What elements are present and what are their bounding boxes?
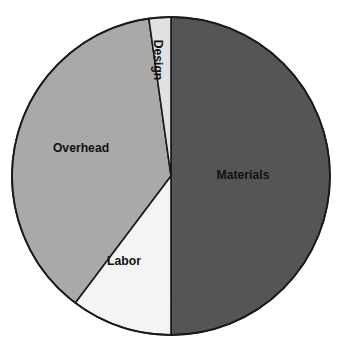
pie-slice-label-design: Design: [151, 40, 165, 81]
pie-slices: [12, 17, 330, 335]
pie-slice-label-materials: Materials: [217, 168, 270, 182]
pie-slice-label-overhead: Overhead: [53, 141, 109, 155]
pie-chart-container: MaterialsOverheadLaborDesign: [0, 0, 341, 357]
pie-chart: MaterialsOverheadLaborDesign: [0, 0, 341, 357]
pie-slice-label-labor: Labor: [107, 254, 141, 268]
